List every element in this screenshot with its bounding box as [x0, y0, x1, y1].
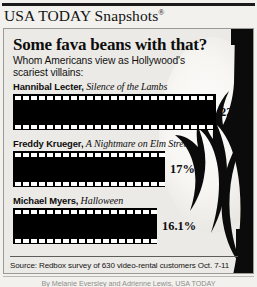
- chart-panel: Some fava beans with that? Whom American…: [3, 28, 254, 274]
- byline-credit: By Melanie Eversley and Adrienne Lewis, …: [0, 279, 257, 287]
- bar-value-label: 16.1%: [162, 219, 196, 234]
- sprocket-row-bottom: [13, 180, 165, 187]
- bar-label-name: Michael Myers,: [13, 195, 78, 206]
- bar-label-film: Halloween: [81, 195, 123, 206]
- sprocket-row-top: [13, 151, 165, 158]
- bar-value-label: 17%: [170, 162, 195, 177]
- bar-film-strip: [13, 94, 216, 130]
- page-title: Some fava beans with that?: [13, 35, 228, 54]
- bar-label: Hannibal Lecter, Silence of the Lambs: [13, 81, 167, 92]
- sprocket-row-top: [13, 94, 216, 101]
- corner-wedge-top: [231, 29, 253, 45]
- bar-label-name: Hannibal Lecter,: [13, 81, 84, 92]
- masthead-brand: USA TODAY Snapshots®: [4, 5, 254, 26]
- snapshot-graphic: USA TODAY Snapshots® Some fava beans wit…: [0, 0, 257, 287]
- byline-divider: [3, 276, 254, 277]
- masthead-brand-text: USA TODAY Snapshots: [4, 7, 158, 24]
- bar-label-name: Freddy Krueger,: [13, 138, 83, 149]
- bar-value-label: 22.9%: [220, 105, 254, 120]
- bar-label: Freddy Krueger, A Nightmare on Elm Stree…: [13, 138, 191, 149]
- bar-film-strip: [13, 151, 165, 187]
- sprocket-row-top: [13, 208, 157, 215]
- sprocket-row-bottom: [13, 237, 157, 244]
- source-note: Source: Redbox survey of 630 video-renta…: [10, 261, 229, 270]
- bar-label-film: A Nightmare on Elm Street: [86, 138, 191, 149]
- page-subtitle: Whom Americans view as Hollywood's scari…: [13, 55, 199, 78]
- registered-mark-icon: ®: [158, 8, 164, 17]
- bar-label: Michael Myers, Halloween: [13, 195, 123, 206]
- source-divider: [10, 256, 238, 257]
- bar-label-film: Silence of the Lambs: [86, 81, 167, 92]
- bar-film-strip: [13, 208, 157, 244]
- sprocket-row-bottom: [13, 123, 216, 130]
- corner-block-bottom: [236, 229, 253, 273]
